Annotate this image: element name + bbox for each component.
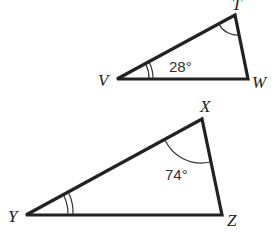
similar-triangles-diagram: T V W 28° X Y Z 74° <box>0 0 273 251</box>
vertex-label-y: Y <box>8 207 19 226</box>
triangle-tvw: T V W 28° <box>98 0 268 92</box>
angle-mark-x <box>165 140 210 163</box>
vertex-label-v: V <box>98 71 111 90</box>
double-angle-mark-y <box>64 196 68 215</box>
vertex-label-w: W <box>252 73 268 92</box>
angle-mark-t <box>219 24 238 35</box>
vertex-label-t: T <box>232 0 243 14</box>
vertex-label-z: Z <box>227 211 237 230</box>
double-angle-mark-v <box>146 65 149 80</box>
vertex-label-x: X <box>199 97 211 116</box>
angle-label-28: 28° <box>169 58 192 75</box>
angle-label-74: 74° <box>165 166 188 183</box>
triangle-xyz: X Y Z 74° <box>8 97 237 230</box>
